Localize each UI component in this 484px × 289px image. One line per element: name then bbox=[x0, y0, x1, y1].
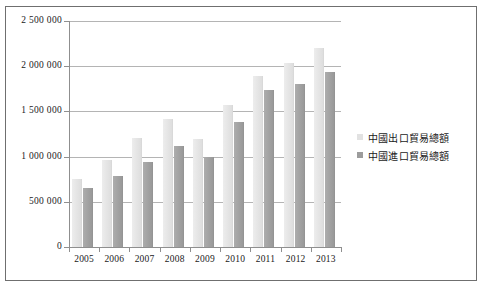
x-axis-tick-label: 2009 bbox=[188, 254, 222, 264]
legend-item-export: 中國出口貿易總額 bbox=[357, 128, 475, 146]
bar-import bbox=[113, 176, 123, 248]
bar-import bbox=[83, 188, 93, 248]
x-axis-tick bbox=[250, 248, 251, 252]
x-axis-tick-label: 2008 bbox=[158, 254, 192, 264]
y-axis-tick-label: 1 500 000 bbox=[21, 105, 62, 115]
legend-label-import: 中國進口貿易總額 bbox=[368, 148, 450, 163]
bar-group bbox=[129, 21, 159, 248]
bar-group bbox=[99, 21, 129, 248]
bar-export bbox=[163, 119, 173, 248]
bar-import bbox=[264, 90, 274, 248]
legend-swatch-import-icon bbox=[357, 152, 363, 158]
bar-export bbox=[193, 139, 203, 248]
x-axis-tick bbox=[190, 248, 191, 252]
bar-group bbox=[281, 21, 311, 248]
y-axis-labels: 0500 0001 000 0001 500 0002 000 0002 500… bbox=[0, 0, 62, 289]
bar-import bbox=[325, 72, 335, 248]
bar-import bbox=[204, 157, 214, 248]
x-axis-tick bbox=[69, 248, 70, 252]
x-axis-tick bbox=[99, 248, 100, 252]
bar-import bbox=[234, 122, 244, 248]
x-axis-tick-label: 2013 bbox=[309, 254, 343, 264]
y-axis-tick-label: 1 000 000 bbox=[21, 151, 62, 161]
x-axis-tick-label: 2007 bbox=[128, 254, 162, 264]
bar-group bbox=[190, 21, 220, 248]
bar-group bbox=[250, 21, 280, 248]
legend-label-export: 中國出口貿易總額 bbox=[368, 130, 450, 145]
y-axis-tick bbox=[64, 21, 69, 22]
x-axis-tick-label: 2005 bbox=[67, 254, 101, 264]
bar-group bbox=[220, 21, 250, 248]
x-axis-tick bbox=[129, 248, 130, 252]
x-axis-tick bbox=[160, 248, 161, 252]
legend-swatch-export-icon bbox=[357, 134, 363, 140]
bar-group bbox=[69, 21, 99, 248]
bar-export bbox=[132, 138, 142, 248]
y-axis-tick bbox=[64, 157, 69, 158]
y-axis-tick bbox=[64, 111, 69, 112]
x-axis-tick bbox=[311, 248, 312, 252]
x-axis-tick bbox=[281, 248, 282, 252]
chart-legend: 中國出口貿易總額 中國進口貿易總額 bbox=[357, 128, 475, 164]
x-axis-tick-label: 2010 bbox=[218, 254, 252, 264]
bar-export bbox=[314, 48, 324, 248]
bar-export bbox=[253, 76, 263, 248]
bar-group bbox=[311, 21, 341, 248]
bar-series-container bbox=[69, 21, 341, 248]
bar-import bbox=[143, 162, 153, 248]
bar-group bbox=[160, 21, 190, 248]
x-axis-tick-label: 2012 bbox=[279, 254, 313, 264]
x-axis-line bbox=[69, 247, 342, 248]
bar-export bbox=[284, 63, 294, 248]
x-axis-tick-label: 2006 bbox=[97, 254, 131, 264]
y-axis-tick bbox=[64, 202, 69, 203]
bar-export bbox=[223, 105, 233, 248]
y-axis-tick-label: 0 bbox=[57, 241, 62, 251]
bar-import bbox=[295, 84, 305, 248]
chart-figure: 0500 0001 000 0001 500 0002 000 0002 500… bbox=[0, 0, 484, 289]
x-axis-tick bbox=[341, 248, 342, 252]
y-axis-tick-label: 2 000 000 bbox=[21, 60, 62, 70]
bar-export bbox=[72, 179, 82, 248]
bar-import bbox=[174, 146, 184, 248]
legend-item-import: 中國進口貿易總額 bbox=[357, 146, 475, 164]
x-axis-tick-label: 2011 bbox=[248, 254, 282, 264]
x-axis-tick bbox=[220, 248, 221, 252]
y-axis-tick-label: 500 000 bbox=[29, 196, 62, 206]
bar-export bbox=[102, 160, 112, 248]
x-axis-labels: 200520062007200820092010201120122013 bbox=[69, 254, 349, 270]
y-axis-tick bbox=[64, 66, 69, 67]
y-axis-tick-label: 2 500 000 bbox=[21, 15, 62, 25]
